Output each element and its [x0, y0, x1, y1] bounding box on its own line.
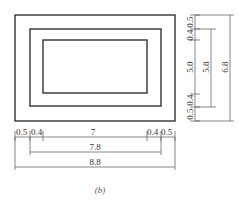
- dim-label-v-0.5-bottom: 0.5: [185, 108, 195, 120]
- figure-caption: (b): [95, 185, 106, 195]
- dim-label-v-0.5-top: 0.5: [185, 16, 195, 28]
- dim-label-h-0.5-right: 0.5: [161, 127, 173, 137]
- dim-label-h-0.4-right: 0.4: [147, 127, 159, 137]
- dim-label-v-5.0: 5.0: [185, 61, 195, 73]
- drawing-canvas: 0.5 0.4 7 0.4 0.5 7.8 8.8 0.5 0.4 5.0 0.…: [0, 0, 244, 204]
- dim-label-v-5.8: 5.8: [201, 61, 211, 73]
- dim-label-h-7: 7: [91, 127, 96, 137]
- dim-label-h-8.8: 8.8: [89, 157, 101, 167]
- dim-label-h-0.4-left: 0.4: [31, 127, 43, 137]
- dim-label-v-6.8: 6.8: [220, 61, 230, 73]
- dim-label-v-0.4-bottom: 0.4: [185, 94, 195, 106]
- outer-rectangle: [15, 15, 175, 121]
- dim-label-h-0.5-left: 0.5: [16, 127, 28, 137]
- dim-label-h-7.8: 7.8: [89, 142, 101, 152]
- dim-label-v-0.4-top: 0.4: [185, 29, 195, 41]
- inner-rectangle: [43, 40, 147, 93]
